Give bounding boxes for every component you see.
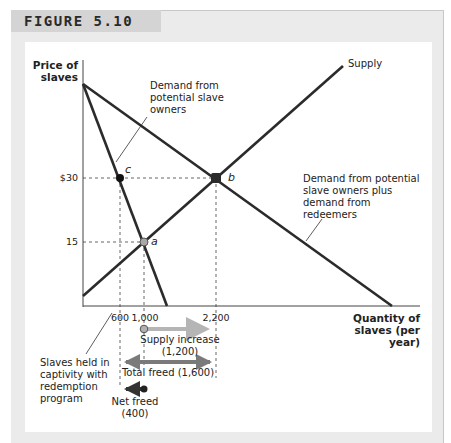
demand-combined-label-line3: demand from [303,197,420,209]
point-b-label: b [228,172,235,184]
x-axis-title-line2: slaves (per year) [320,324,420,348]
y-axis-title: Price of slaves [20,59,78,83]
x-tick-600: 600 [108,312,132,324]
x-tick-1000: 1,000 [130,312,160,324]
net-freed-label: Net freed (400) [110,396,160,420]
net-freed-value: (400) [110,408,160,420]
net-freed-arrow [126,386,148,393]
x-axis-title: Quantity of slaves (per year) [320,312,420,348]
net-freed-text: Net freed [110,396,160,408]
point-b [211,173,221,183]
captivity-label-line2: captivity with [40,369,110,381]
supply-label: Supply [348,58,382,70]
captivity-label: Slaves held in captivity with redemption… [40,357,110,405]
point-a [140,238,148,246]
y-tick-30: $30 [40,172,78,184]
supply-increase-text: Supply increase [140,334,220,346]
captivity-label-line1: Slaves held in [40,357,110,369]
point-c [116,174,124,182]
x-tick-2200: 2,200 [200,312,232,324]
demand-owners-curve [83,84,167,306]
demand-owners-label-line3: owners [150,104,224,116]
x-axis-title-line1: Quantity of [320,312,420,324]
captivity-label-line3: redemption [40,381,110,393]
point-a-label: a [151,236,158,248]
supply-increase-arrow [140,325,206,333]
y-axis-title-line1: Price of [20,59,78,71]
demand-combined-label: Demand from potential slave owners plus … [303,173,420,221]
demand-owners-label-line1: Demand from [150,80,224,92]
supply-increase-label: Supply increase (1,200) [140,334,220,358]
point-c-label: c [125,164,131,176]
leader-demand-combined [306,219,322,241]
y-axis-title-line2: slaves [20,71,78,83]
captivity-label-line4: program [40,393,110,405]
supply-increase-value: (1,200) [140,346,220,358]
demand-combined-label-line1: Demand from potential [303,173,420,185]
demand-owners-label: Demand from potential slave owners [150,80,224,116]
total-freed-label: Total freed (1,600) [120,367,216,379]
demand-combined-label-line2: slave owners plus [303,185,420,197]
demand-owners-label-line2: potential slave [150,92,224,104]
y-tick-15: 15 [40,236,78,248]
demand-combined-label-line4: redeemers [303,209,420,221]
leader-demand-owners [116,117,147,162]
